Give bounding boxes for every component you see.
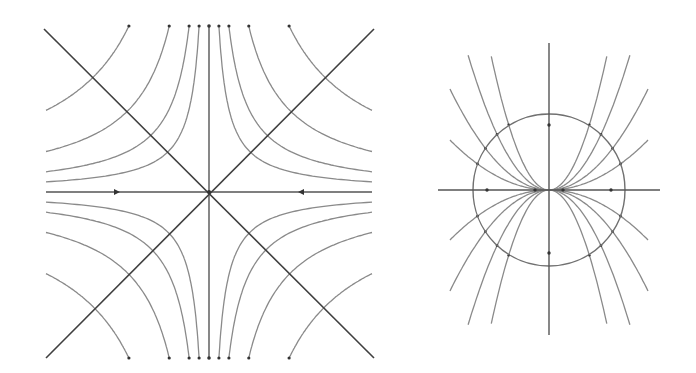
trajectory-arrowhead <box>168 24 171 27</box>
trajectory-arrowhead <box>247 24 250 27</box>
trajectory-arrowhead <box>188 356 191 359</box>
axis-arrow-marker <box>547 251 550 254</box>
trajectory-arrowhead <box>168 356 171 359</box>
hyperbolic-trajectory <box>219 26 372 182</box>
figure-canvas <box>0 0 696 373</box>
trajectory-arrowhead <box>127 356 130 359</box>
degenerate-node-phase-portrait <box>438 43 660 335</box>
trajectory-arrowhead <box>217 356 220 359</box>
trajectory-arrowhead <box>217 24 220 27</box>
trajectory-arrowhead <box>188 24 191 27</box>
trajectory-arrowhead <box>198 356 201 359</box>
axis-arrow-marker <box>609 188 612 191</box>
axis-arrow-icon <box>298 189 304 195</box>
trajectory-arrowhead <box>288 356 291 359</box>
trajectory-arrowhead <box>247 356 250 359</box>
trajectory-arrowhead <box>127 24 130 27</box>
parabolic-trajectory <box>491 190 549 324</box>
trajectory-arrowhead <box>288 24 291 27</box>
hyperbolic-trajectory <box>46 26 189 172</box>
axis-arrow-marker <box>533 188 536 191</box>
axis-arrow-marker <box>547 123 550 126</box>
hyperbolic-trajectory <box>46 26 199 182</box>
parabolic-trajectory <box>491 56 549 190</box>
hyperbolic-trajectory <box>46 26 169 152</box>
hyperbolic-trajectory <box>46 26 129 110</box>
phase-portraits-figure <box>0 0 696 373</box>
vertical-axis-arrowhead <box>207 24 211 28</box>
trajectory-arrowhead <box>227 356 230 359</box>
vertical-axis-arrowhead <box>207 356 211 360</box>
axis-arrow-icon <box>114 189 120 195</box>
trajectory-arrowhead <box>227 24 230 27</box>
saddle-phase-portrait <box>44 24 374 360</box>
hyperbolic-trajectory <box>249 26 372 152</box>
axis-arrow-marker <box>561 188 564 191</box>
parabolic-trajectory <box>549 56 607 190</box>
hyperbolic-trajectory <box>229 26 372 172</box>
equilibrium-point <box>207 190 211 194</box>
axis-arrow-marker <box>485 188 488 191</box>
parabolic-trajectory <box>549 190 607 324</box>
hyperbolic-trajectory <box>289 26 372 110</box>
trajectory-arrowhead <box>198 24 201 27</box>
